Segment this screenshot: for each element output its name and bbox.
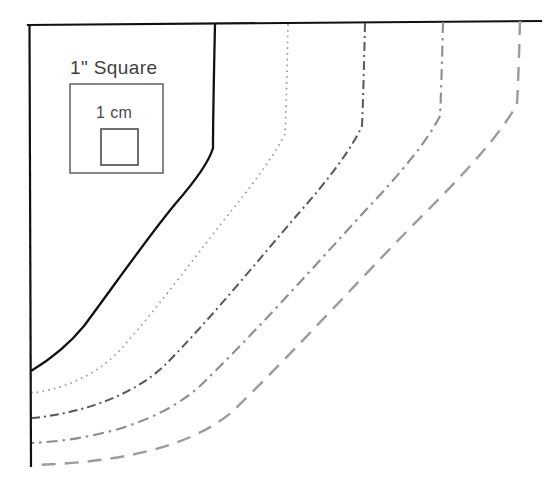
left-edge-rule [30,25,32,466]
pattern-diagram-page: 1" Square 1 cm [0,0,545,497]
inch-square-label: 1" Square [70,57,157,79]
cm-square-label: 1 cm [96,104,132,122]
